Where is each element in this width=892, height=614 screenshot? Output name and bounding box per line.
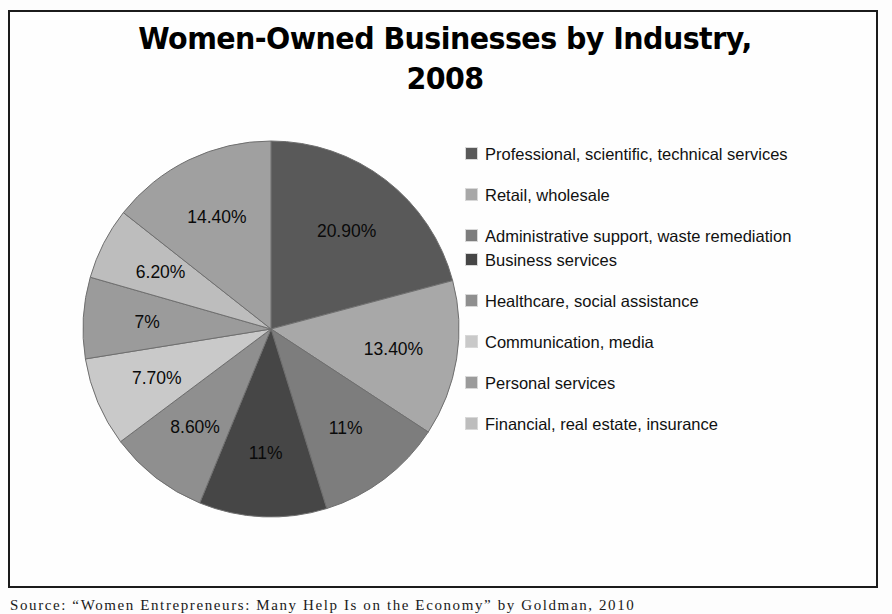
legend-item[interactable]: Personal services bbox=[465, 373, 885, 393]
source-caption: Source: “Women Entrepreneurs: Many Help … bbox=[10, 596, 890, 614]
legend-item-label: Business services bbox=[485, 250, 617, 270]
legend-swatch-icon bbox=[465, 294, 478, 307]
legend-item-label: Professional, scientific, technical serv… bbox=[485, 144, 788, 164]
legend-swatch-icon bbox=[465, 417, 478, 430]
pie-slice-value-label: 11% bbox=[249, 443, 283, 463]
legend-item[interactable]: Business services bbox=[465, 250, 885, 270]
legend-item[interactable]: Administrative support, waste remediatio… bbox=[465, 226, 885, 246]
pie-chart: 20.90%13.40%11%11%8.60%7.70%7%6.20%14.40… bbox=[82, 140, 460, 518]
legend-item-label: Personal services bbox=[485, 373, 615, 393]
legend-item[interactable]: Communication, media bbox=[465, 332, 885, 352]
legend-item[interactable]: Retail, wholesale bbox=[465, 185, 885, 205]
pie-slice-value-label: 6.20% bbox=[136, 262, 186, 282]
pie-slice-value-label: 20.90% bbox=[317, 221, 376, 241]
pie-slice-value-label: 7.70% bbox=[132, 368, 182, 388]
figure-frame: Women-Owned Businesses by Industry, 2008… bbox=[8, 10, 878, 588]
legend-swatch-icon bbox=[465, 229, 478, 242]
pie-slice-value-label: 11% bbox=[329, 418, 363, 438]
page-title: Women-Owned Businesses by Industry, 2008 bbox=[82, 18, 809, 98]
legend-item[interactable]: Professional, scientific, technical serv… bbox=[465, 144, 885, 164]
pie-slice-value-label: 7% bbox=[134, 312, 159, 332]
figure-page: Women-Owned Businesses by Industry, 2008… bbox=[0, 0, 892, 614]
legend-swatch-icon bbox=[465, 253, 478, 266]
legend-swatch-icon bbox=[465, 376, 478, 389]
pie-slice-value-label: 8.60% bbox=[170, 417, 220, 437]
chart-legend: Professional, scientific, technical serv… bbox=[465, 144, 885, 455]
legend-item-label: Financial, real estate, insurance bbox=[485, 414, 718, 434]
pie-slice-value-label: 14.40% bbox=[187, 207, 246, 227]
legend-swatch-icon bbox=[465, 147, 478, 160]
pie-chart-svg: 20.90%13.40%11%11%8.60%7.70%7%6.20%14.40… bbox=[82, 140, 460, 518]
legend-swatch-icon bbox=[465, 188, 478, 201]
legend-item[interactable]: Financial, real estate, insurance bbox=[465, 414, 885, 434]
legend-item-label: Healthcare, social assistance bbox=[485, 291, 699, 311]
legend-swatch-icon bbox=[465, 335, 478, 348]
legend-item[interactable]: Healthcare, social assistance bbox=[465, 291, 885, 311]
legend-item-label: Retail, wholesale bbox=[485, 185, 610, 205]
legend-item-label: Communication, media bbox=[485, 332, 654, 352]
legend-item-label: Administrative support, waste remediatio… bbox=[485, 226, 791, 246]
pie-slice-value-label: 13.40% bbox=[364, 339, 423, 359]
